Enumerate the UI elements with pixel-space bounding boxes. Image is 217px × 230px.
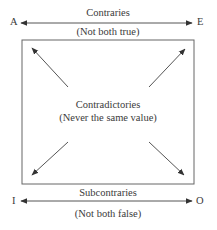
diagonal-arrow-bottom-left: [32, 142, 68, 175]
corner-o-label: O: [196, 195, 204, 207]
diagonal-arrow-top-right: [149, 49, 185, 87]
corner-a-label: A: [10, 16, 18, 28]
corner-i-label: I: [12, 195, 16, 207]
contradictories-description: (Never the same value): [59, 112, 157, 124]
diagonal-arrow-top-left: [32, 48, 68, 87]
corner-e-label: E: [197, 16, 203, 28]
subcontraries-description: (Not both false): [75, 208, 141, 220]
contraries-description: (Not both true): [77, 26, 140, 38]
subcontraries-label: Subcontraries: [79, 187, 137, 199]
diagonal-arrow-bottom-right: [149, 142, 184, 175]
contradictories-label: Contradictories: [76, 99, 141, 111]
contraries-label: Contraries: [86, 7, 130, 19]
